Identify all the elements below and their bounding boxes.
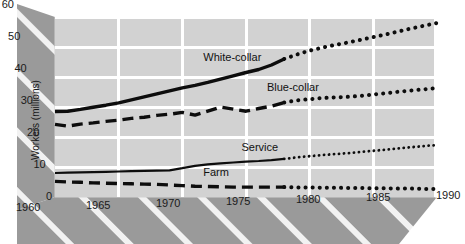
series-label-service: Service xyxy=(241,141,278,153)
series-line-blue-collar xyxy=(55,103,284,127)
series-lines xyxy=(55,17,437,197)
series-line-farm xyxy=(55,181,284,187)
x-tick-label-1990: 1990 xyxy=(436,189,465,201)
y-tick-label-40: 40 xyxy=(0,62,27,74)
y-tick-label-30: 30 xyxy=(3,94,33,106)
series-label-white-collar: White-collar xyxy=(203,51,261,63)
y-tick-label-60: 60 xyxy=(0,0,14,10)
x-tick-label-1970: 1970 xyxy=(156,197,196,209)
plot-area xyxy=(55,17,437,197)
series-line-white-collar xyxy=(55,59,284,112)
x-tick-label-1965: 1965 xyxy=(86,199,126,211)
series-projection-farm xyxy=(284,187,437,189)
series-projection-service xyxy=(284,145,437,159)
series-label-blue-collar: Blue-collar xyxy=(267,81,319,93)
y-axis-title: Workers (millions) xyxy=(30,80,41,160)
y-tick-label-50: 50 xyxy=(0,30,20,42)
x-tick-label-1985: 1985 xyxy=(366,191,406,203)
x-tick-label-1960: 1960 xyxy=(16,201,56,213)
series-line-service xyxy=(55,159,284,173)
series-projection-white-collar xyxy=(284,23,437,59)
series-label-farm: Farm xyxy=(203,166,229,178)
x-tick-label-1980: 1980 xyxy=(296,193,336,205)
x-tick-label-1975: 1975 xyxy=(226,195,266,207)
